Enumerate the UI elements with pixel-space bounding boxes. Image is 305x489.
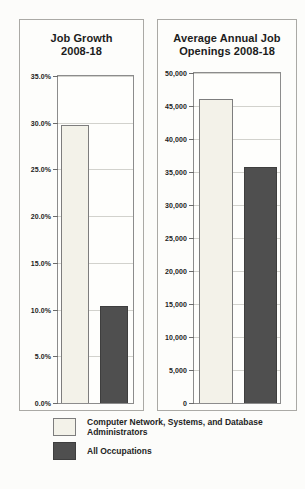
legend-label-cnsda: Computer Network, Systems, and Database … — [87, 417, 287, 437]
legend-item-cnsda: Computer Network, Systems, and Database … — [53, 417, 293, 437]
legend-swatch-cnsda — [53, 418, 76, 436]
job-growth-plot-area: 0.0%5.0%10.0%15.0%20.0%25.0%30.0%35.0% — [57, 75, 134, 404]
y-tick-mark — [53, 310, 58, 311]
y-axis-label: 0.0% — [11, 399, 51, 408]
figure-legend: Computer Network, Systems, and Database … — [53, 417, 293, 460]
legend-label-all-occupations: All Occupations — [87, 446, 287, 456]
two-panel-bar-chart-figure: Job Growth 2008-18 0.0%5.0%10.0%15.0%20.… — [0, 0, 305, 489]
y-tick-mark — [53, 169, 58, 170]
bar-cnsda — [199, 99, 233, 403]
annual-openings-chart-panel: Average Annual Job Openings 2008-18 05,0… — [157, 19, 297, 411]
y-tick-mark — [189, 271, 194, 272]
legend-item-all-occupations: All Occupations — [53, 442, 293, 460]
y-axis-label: 0 — [147, 399, 187, 408]
y-axis-label: 25.0% — [11, 165, 51, 174]
y-axis-label: 15.0% — [11, 259, 51, 268]
y-tick-mark — [189, 172, 194, 173]
y-tick-mark — [189, 337, 194, 338]
legend-swatch-all-occupations — [53, 442, 76, 460]
annual-openings-chart-title: Average Annual Job Openings 2008-18 — [158, 32, 296, 58]
y-axis-label: 35.0% — [11, 72, 51, 81]
y-tick-mark — [189, 106, 194, 107]
y-axis-label: 20,000 — [147, 267, 187, 276]
bar-cnsda — [61, 125, 89, 403]
bar-all-occupations — [100, 306, 128, 403]
y-axis-label: 15,000 — [147, 300, 187, 309]
y-axis-label: 10,000 — [147, 333, 187, 342]
y-tick-mark — [53, 123, 58, 124]
y-tick-mark — [189, 238, 194, 239]
y-axis-label: 30,000 — [147, 201, 187, 210]
job-growth-chart-title: Job Growth 2008-18 — [20, 32, 143, 58]
y-tick-mark — [53, 216, 58, 217]
y-tick-mark — [189, 304, 194, 305]
y-axis-label: 40,000 — [147, 135, 187, 144]
y-tick-mark — [189, 403, 194, 404]
y-axis-label: 5.0% — [11, 352, 51, 361]
y-axis-label: 20.0% — [11, 212, 51, 221]
y-axis-label: 30.0% — [11, 119, 51, 128]
gridline — [194, 73, 280, 74]
y-axis-label: 5,000 — [147, 366, 187, 375]
y-tick-mark — [53, 76, 58, 77]
y-tick-mark — [53, 356, 58, 357]
y-tick-mark — [53, 263, 58, 264]
y-tick-mark — [189, 139, 194, 140]
y-axis-label: 50,000 — [147, 69, 187, 78]
job-growth-chart-panel: Job Growth 2008-18 0.0%5.0%10.0%15.0%20.… — [19, 19, 144, 411]
annual-openings-plot-area: 05,00010,00015,00020,00025,00030,00035,0… — [193, 72, 281, 404]
y-axis-label: 35,000 — [147, 168, 187, 177]
y-tick-mark — [189, 370, 194, 371]
bar-all-occupations — [244, 167, 277, 403]
y-axis-label: 45,000 — [147, 102, 187, 111]
y-axis-label: 25,000 — [147, 234, 187, 243]
y-tick-mark — [189, 73, 194, 74]
y-tick-mark — [53, 403, 58, 404]
gridline — [58, 123, 133, 124]
y-axis-label: 10.0% — [11, 306, 51, 315]
gridline — [58, 76, 133, 77]
y-tick-mark — [189, 205, 194, 206]
